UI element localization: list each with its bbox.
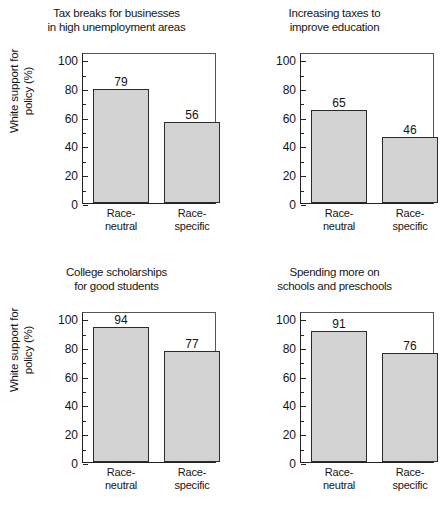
bar-value-label: 46 (403, 124, 416, 137)
y-tick-label: 60 (65, 372, 78, 384)
y-tick-minor (83, 392, 86, 393)
y-tick-major (301, 90, 306, 91)
y-axis-label: White support forpolicy (%) (4, 26, 38, 156)
x-category-label-line: specific (158, 220, 226, 233)
y-tick-label: 20 (65, 170, 78, 182)
x-category-label-line: specific (376, 220, 442, 233)
y-tick-major (301, 349, 306, 350)
y-tick-label: 20 (283, 170, 296, 182)
bar: 94 (93, 327, 149, 462)
y-tick-label: 60 (283, 372, 296, 384)
y-tick-label: 0 (71, 199, 78, 211)
bar: 65 (311, 110, 367, 203)
x-category-label-line: neutral (87, 220, 155, 233)
y-tick-minor (83, 450, 86, 451)
y-tick-major (301, 320, 306, 321)
x-category-label: Race-specific (158, 466, 226, 491)
y-tick-major (301, 61, 306, 62)
y-tick-label: 100 (58, 55, 78, 67)
y-tick-label: 40 (65, 141, 78, 153)
chart-panel-0: Tax breaks for businessesin high unemplo… (0, 0, 217, 259)
y-tick-major (83, 464, 88, 465)
bar-value-label: 65 (332, 97, 345, 110)
y-tick-minor (83, 76, 86, 77)
panel-title: College scholarshipsfor good students (18, 266, 215, 293)
panel-title-line: improve education (236, 21, 433, 35)
y-tick-label: 100 (58, 314, 78, 326)
bar-value-label: 76 (403, 340, 416, 353)
bar-value-label: 56 (185, 109, 198, 122)
x-category-label-line: Race- (87, 207, 155, 220)
y-tick-major (83, 349, 88, 350)
bar: 91 (311, 331, 367, 462)
y-tick-major (83, 378, 88, 379)
y-tick-major (83, 205, 88, 206)
y-tick-label: 0 (289, 458, 296, 470)
x-category-label: Race-neutral (87, 466, 155, 491)
plot-area: 02040608010065Race-neutral46Race-specifi… (300, 53, 434, 204)
bar-value-label: 91 (332, 318, 345, 331)
x-category-label: Race-neutral (305, 207, 373, 232)
x-category-label-line: Race- (305, 466, 373, 479)
y-tick-label: 100 (276, 314, 296, 326)
y-tick-label: 80 (283, 84, 296, 96)
x-category-label-line: specific (158, 479, 226, 492)
y-tick-major (83, 320, 88, 321)
chart-panel-2: College scholarshipsfor good studentsWhi… (0, 259, 217, 518)
y-tick-major (301, 147, 306, 148)
y-tick-major (301, 176, 306, 177)
y-tick-label: 20 (283, 429, 296, 441)
y-axis-label-line: White support for (7, 308, 21, 392)
y-tick-label: 80 (65, 343, 78, 355)
y-tick-label: 60 (283, 113, 296, 125)
x-category-label-line: neutral (305, 220, 373, 233)
y-tick-major (301, 464, 306, 465)
y-tick-label: 40 (283, 400, 296, 412)
y-tick-major (83, 90, 88, 91)
y-axis-label-line: White support for (7, 49, 21, 133)
y-tick-minor (301, 450, 304, 451)
y-tick-label: 20 (65, 429, 78, 441)
y-axis-label-line: policy (%) (21, 49, 35, 133)
bar-value-label: 94 (114, 314, 127, 327)
y-tick-major (301, 406, 306, 407)
bar-value-label: 77 (185, 338, 198, 351)
y-tick-minor (301, 335, 304, 336)
panel-title: Spending more onschools and preschools (236, 266, 433, 293)
y-tick-major (83, 406, 88, 407)
x-category-label: Race-neutral (87, 207, 155, 232)
x-category-label-line: Race- (158, 466, 226, 479)
x-category-label: Race-neutral (305, 466, 373, 491)
plot-area: 02040608010091Race-neutral76Race-specifi… (300, 312, 434, 463)
bar: 46 (382, 137, 438, 203)
x-category-label-line: Race- (305, 207, 373, 220)
y-tick-major (83, 176, 88, 177)
y-tick-minor (301, 392, 304, 393)
y-tick-label: 80 (283, 343, 296, 355)
x-category-label-line: Race- (158, 207, 226, 220)
y-axis-label: White support forpolicy (%) (4, 285, 38, 415)
y-tick-major (83, 435, 88, 436)
y-tick-major (301, 119, 306, 120)
y-tick-major (83, 119, 88, 120)
y-tick-label: 100 (276, 55, 296, 67)
y-tick-label: 40 (283, 141, 296, 153)
y-tick-minor (83, 421, 86, 422)
y-axis-label-text: White support forpolicy (%) (7, 308, 35, 392)
chart-panel-3: Spending more onschools and preschools02… (218, 259, 435, 518)
y-tick-minor (83, 335, 86, 336)
y-tick-minor (301, 104, 304, 105)
y-tick-minor (83, 162, 86, 163)
y-tick-label: 0 (71, 458, 78, 470)
x-category-label-line: Race- (87, 466, 155, 479)
panel-title-line: College scholarships (18, 266, 215, 280)
y-tick-label: 60 (65, 113, 78, 125)
x-category-label-line: Race- (376, 466, 442, 479)
y-tick-major (301, 205, 306, 206)
x-category-label-line: neutral (305, 479, 373, 492)
panel-title: Tax breaks for businessesin high unemplo… (18, 7, 215, 34)
panel-title: Increasing taxes toimprove education (236, 7, 433, 34)
y-tick-minor (83, 133, 86, 134)
plot-area: 02040608010094Race-neutral77Race-specifi… (82, 312, 216, 463)
